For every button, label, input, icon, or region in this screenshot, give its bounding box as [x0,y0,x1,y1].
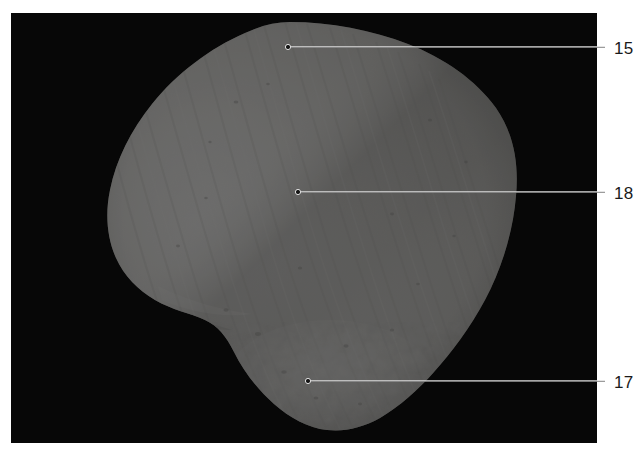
callout-label-18: 18 [614,184,634,203]
specimen-figure: 15 18 17 [0,0,642,453]
leader-dot-18 [295,189,300,194]
leader-dot-15 [285,44,290,49]
leader-dot-17 [305,378,310,383]
callout-label-17: 17 [614,373,634,392]
callout-label-15: 15 [614,39,634,58]
plate-grain [11,13,597,443]
figure-root: 15 18 17 [0,0,642,453]
